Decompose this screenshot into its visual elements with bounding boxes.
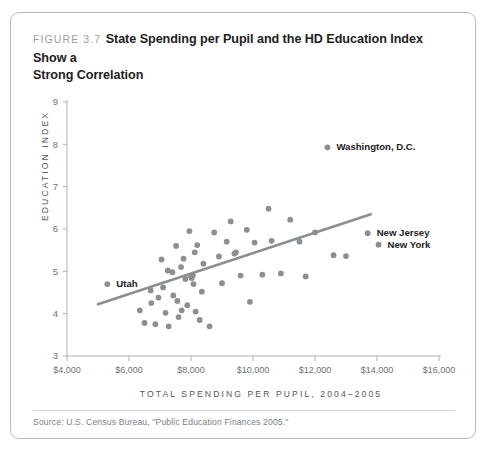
- x-tick-label: $10,000: [237, 365, 270, 375]
- x-tick-label: $8,000: [177, 365, 205, 375]
- x-tick-label: $16,000: [423, 365, 456, 375]
- data-point: [174, 298, 180, 304]
- data-point: [148, 287, 154, 293]
- data-point: [247, 299, 253, 305]
- x-tick-label: $4,000: [53, 365, 81, 375]
- data-point: [142, 320, 148, 326]
- data-point: [238, 273, 244, 279]
- data-point: [170, 293, 176, 299]
- data-point: [252, 240, 258, 246]
- data-point-labeled: [104, 281, 110, 287]
- data-point-label: Washington, D.C.: [336, 141, 415, 152]
- data-point: [192, 249, 198, 255]
- y-tick-label: 3: [53, 350, 58, 361]
- y-tick-label: 8: [53, 139, 58, 150]
- data-point: [183, 276, 189, 282]
- plot-svg: 3456789$4,000$6,000$8,000$10,000$12,000$…: [11, 13, 477, 440]
- source-note: Source: U.S. Census Bureau, "Public Educ…: [33, 417, 289, 427]
- x-tick-label: $12,000: [299, 365, 332, 375]
- data-point: [191, 281, 197, 287]
- data-point: [343, 253, 349, 259]
- data-point: [303, 274, 309, 280]
- data-point: [181, 256, 187, 262]
- data-point: [266, 206, 272, 212]
- data-point: [163, 310, 169, 316]
- y-axis-title: EDUCATION INDEX: [40, 91, 50, 241]
- data-point: [233, 249, 239, 255]
- data-point: [216, 254, 222, 260]
- data-point: [219, 280, 225, 286]
- data-point: [224, 239, 230, 245]
- data-point: [166, 323, 172, 329]
- data-point-labeled: [365, 230, 371, 236]
- y-tick-label: 9: [53, 96, 58, 107]
- x-tick-label: $6,000: [115, 365, 143, 375]
- data-point-labeled: [376, 242, 382, 248]
- data-point: [148, 300, 154, 306]
- data-point-label: New York: [388, 239, 431, 250]
- figure-card: FIGURE 3.7 State Spending per Pupil and …: [10, 12, 476, 439]
- data-point: [244, 227, 250, 233]
- data-point: [170, 269, 176, 275]
- data-point: [187, 228, 193, 234]
- data-point: [137, 307, 143, 313]
- data-point: [259, 272, 265, 278]
- data-point: [184, 302, 190, 308]
- data-point: [228, 218, 234, 224]
- data-point-labeled: [325, 144, 331, 150]
- scatter-plot: 3456789$4,000$6,000$8,000$10,000$12,000$…: [11, 13, 477, 440]
- data-point: [199, 289, 205, 295]
- data-point: [312, 229, 318, 235]
- y-tick-label: 6: [53, 223, 58, 234]
- data-point: [278, 271, 284, 277]
- data-point: [287, 217, 293, 223]
- data-point: [156, 295, 162, 301]
- data-point: [179, 307, 185, 313]
- y-tick-label: 4: [53, 308, 58, 319]
- data-point: [160, 285, 166, 291]
- data-point: [331, 252, 337, 258]
- y-tick-label: 5: [53, 266, 58, 277]
- data-point: [193, 309, 199, 315]
- data-point: [152, 321, 158, 327]
- data-point: [159, 257, 165, 263]
- x-axis-title: TOTAL SPENDING PER PUPIL, 2004–2005: [61, 389, 461, 399]
- data-point: [173, 243, 179, 249]
- source-divider: [33, 410, 455, 411]
- data-point: [197, 317, 203, 323]
- data-point-label: New Jersey: [377, 227, 430, 238]
- data-point: [194, 242, 200, 248]
- x-tick-label: $14,000: [361, 365, 394, 375]
- data-point: [176, 314, 182, 320]
- data-point: [207, 323, 213, 329]
- data-point: [297, 239, 303, 245]
- trend-line: [98, 214, 371, 304]
- data-point: [178, 264, 184, 270]
- data-point: [269, 238, 275, 244]
- data-point: [201, 261, 207, 267]
- data-point-label: Utah: [116, 278, 137, 289]
- data-point: [211, 229, 217, 235]
- y-tick-label: 7: [53, 181, 58, 192]
- data-point: [190, 273, 196, 279]
